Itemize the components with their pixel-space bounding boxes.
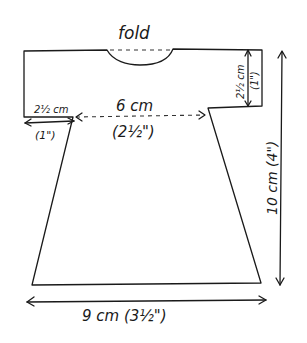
bodice-width-arrow: [76, 115, 205, 117]
pattern-outline: [24, 49, 262, 285]
total-length-label: 10 cm (4"): [264, 141, 280, 215]
sleeve-length-in-label: (1"): [249, 71, 260, 90]
hem-width-arrow: [27, 300, 266, 302]
pattern-diagram: fold 2½ cm (1") 2½ cm (1") 6 cm (2½") 10…: [0, 0, 307, 343]
sleeve-width-in-label: (1"): [35, 129, 56, 142]
sleeve-length-cm-label: 2½ cm: [235, 64, 246, 99]
bodice-width-in-label: (2½"): [112, 123, 155, 141]
sleeve-width-cm-label: 2½ cm: [34, 104, 69, 115]
bodice-width-cm-label: 6 cm: [116, 97, 153, 115]
hem-width-label: 9 cm (3½"): [82, 307, 167, 325]
sleeve-width-arrow: [25, 121, 74, 123]
total-length-arrow: [280, 52, 282, 285]
fold-label: fold: [118, 23, 150, 43]
